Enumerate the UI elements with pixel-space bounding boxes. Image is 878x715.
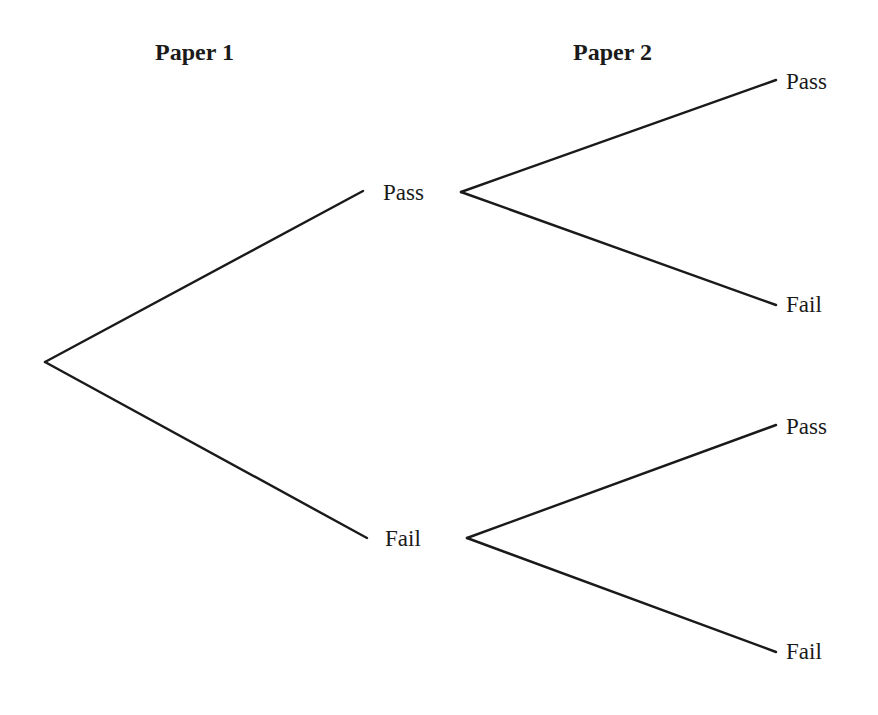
branch-fail-to-paper2-fail — [467, 538, 776, 652]
tree-branches — [0, 0, 878, 715]
branch-pass-to-paper2-fail — [461, 192, 776, 305]
node-paper1-pass: Pass — [383, 181, 424, 204]
branch-pass-to-paper2-pass — [461, 80, 776, 192]
node-paper1-fail: Fail — [385, 527, 421, 550]
column-header-paper2: Paper 2 — [573, 40, 652, 64]
branch-root-to-paper1-pass — [45, 191, 363, 362]
branch-fail-to-paper2-pass — [467, 425, 776, 538]
node-paper2-pass-pass: Pass — [786, 70, 827, 93]
branch-root-to-paper1-fail — [45, 362, 367, 538]
node-paper2-fail-pass: Pass — [786, 415, 827, 438]
node-paper2-fail-fail: Fail — [786, 640, 822, 663]
column-header-paper1: Paper 1 — [155, 40, 234, 64]
node-paper2-pass-fail: Fail — [786, 293, 822, 316]
